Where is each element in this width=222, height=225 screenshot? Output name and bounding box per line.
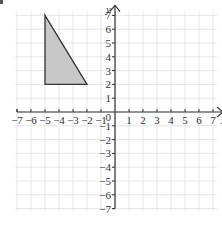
y-tick-label: 5	[106, 37, 112, 49]
y-tick-label: 1	[106, 92, 112, 104]
y-tick-label: 4	[106, 51, 112, 63]
y-tick-label: 2	[106, 78, 112, 90]
coordinate-grid: −7−6−5−4−3−2−112345677654321−1−2−3−4−5−6…	[0, 0, 222, 225]
origin-label: 0	[106, 111, 112, 123]
x-tick-label: 6	[196, 114, 202, 126]
y-tick-label: −4	[99, 161, 111, 173]
x-tick-label: 4	[168, 114, 174, 126]
x-tick-label: −2	[81, 114, 93, 126]
tick-labels: −7−6−5−4−3−2−112345677654321−1−2−3−4−5−6…	[11, 3, 222, 214]
y-axis-label: y	[105, 3, 111, 15]
triangle-shape	[45, 15, 87, 84]
y-tick-label: 6	[106, 23, 112, 35]
x-tick-label: −6	[25, 114, 37, 126]
x-tick-label: 2	[140, 114, 146, 126]
y-tick-label: −5	[99, 175, 111, 187]
x-tick-label: −7	[11, 114, 23, 126]
x-tick-label: 1	[126, 114, 132, 126]
y-tick-label: −7	[99, 203, 111, 215]
y-tick-label: −6	[99, 189, 111, 201]
x-tick-label: −4	[53, 114, 65, 126]
x-axis-label: x	[220, 114, 222, 126]
x-tick-label: 3	[154, 114, 160, 126]
corner-mark	[0, 0, 3, 4]
y-tick-label: 3	[106, 65, 112, 77]
x-tick-label: −3	[67, 114, 79, 126]
x-tick-label: 7	[210, 114, 216, 126]
x-tick-label: −5	[39, 114, 51, 126]
y-tick-label: −2	[99, 134, 111, 146]
x-tick-label: 5	[182, 114, 188, 126]
triangle	[45, 15, 87, 84]
y-tick-label: −3	[99, 147, 111, 159]
